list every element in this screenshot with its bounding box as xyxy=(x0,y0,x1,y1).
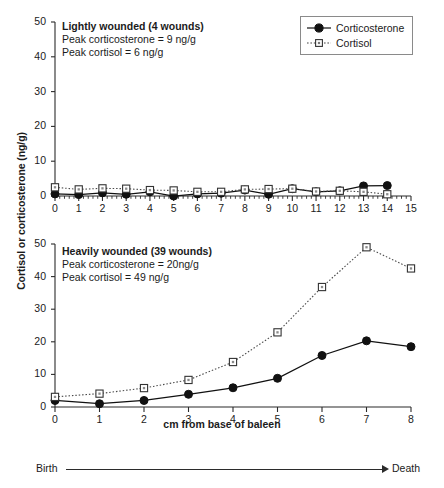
legend-label-cortisol: Cortisol xyxy=(336,37,372,49)
x-tick-label: 15 xyxy=(401,203,421,214)
legend-item-corticosterone: Corticosterone xyxy=(306,21,404,35)
lifeline-arrow-icon xyxy=(382,465,389,473)
y-tick-label: 10 xyxy=(22,155,46,165)
x-tick-label: 2 xyxy=(134,414,154,425)
y-tick-label: 40 xyxy=(22,271,46,281)
x-tick-label: 8 xyxy=(235,203,255,214)
x-tick-label: 7 xyxy=(211,203,231,214)
y-tick-label: 30 xyxy=(22,86,46,96)
x-tick-label: 11 xyxy=(306,203,326,214)
figure: Cortisol or corticosterone (ng/g) Lightl… xyxy=(0,0,444,488)
legend: Corticosterone Cortisol xyxy=(300,16,413,55)
legend-key-cortisol xyxy=(306,37,332,49)
x-tick-label: 3 xyxy=(116,203,136,214)
lifeline-end-label: Death xyxy=(392,462,420,474)
x-tick-label: 5 xyxy=(268,414,288,425)
x-tick-label: 1 xyxy=(69,203,89,214)
x-tick-label: 7 xyxy=(357,414,377,425)
x-tick-label: 3 xyxy=(179,414,199,425)
x-tick-label: 13 xyxy=(354,203,374,214)
y-tick-label: 50 xyxy=(22,16,46,26)
x-tick-label: 14 xyxy=(377,203,397,214)
x-tick-label: 4 xyxy=(140,203,160,214)
x-tick-label: 6 xyxy=(187,203,207,214)
x-tick-label: 5 xyxy=(164,203,184,214)
x-tick-label: 10 xyxy=(282,203,302,214)
y-tick-label: 10 xyxy=(22,368,46,378)
legend-label-corticosterone: Corticosterone xyxy=(336,22,404,34)
y-tick-label: 20 xyxy=(22,120,46,130)
x-tick-label: 0 xyxy=(45,414,65,425)
y-tick-label: 0 xyxy=(22,401,46,411)
lifeline-bar xyxy=(66,469,384,470)
x-tick-label: 2 xyxy=(92,203,112,214)
x-tick-label: 8 xyxy=(401,414,421,425)
y-tick-label: 0 xyxy=(22,190,46,200)
lifeline-axis: Birth Death xyxy=(0,460,444,482)
x-tick-label: 6 xyxy=(312,414,332,425)
y-tick-label: 20 xyxy=(22,336,46,346)
legend-key-corticosterone xyxy=(306,22,332,34)
y-tick-label: 50 xyxy=(22,238,46,248)
x-tick-label: 4 xyxy=(223,414,243,425)
x-tick-label: 9 xyxy=(259,203,279,214)
y-tick-label: 40 xyxy=(22,51,46,61)
x-tick-label: 12 xyxy=(330,203,350,214)
legend-item-cortisol: Cortisol xyxy=(306,36,404,50)
x-tick-label: 0 xyxy=(45,203,65,214)
y-tick-label: 30 xyxy=(22,303,46,313)
lifeline-start-label: Birth xyxy=(36,462,58,474)
chart-panel-heavily-wounded: Heavily wounded (39 wounds) Peak cortico… xyxy=(0,236,444,436)
x-tick-label: 1 xyxy=(90,414,110,425)
